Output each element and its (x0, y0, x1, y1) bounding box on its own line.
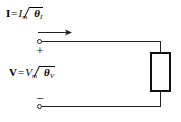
voltage-equals-sign: = (17, 66, 25, 78)
bottom-wire (42, 106, 161, 107)
voltage-vector-symbol: V (9, 66, 17, 78)
circuit-diagram-canvas: I=ImθI V=VmθV + − (0, 0, 181, 122)
voltage-magnitude-symbol: V (25, 66, 32, 78)
top-wire (42, 41, 161, 42)
voltage-phasor-label: V=VmθV (9, 66, 55, 80)
current-angle-notation: θI (29, 7, 43, 21)
current-direction-arrow-icon (38, 29, 72, 36)
voltage-angle-subscript: V (50, 72, 54, 80)
current-angle-subscript: I (40, 13, 42, 21)
current-phasor-label: I=ImθI (6, 7, 43, 21)
voltage-angle-notation: θV (39, 66, 55, 80)
right-lower-wire (160, 91, 161, 107)
current-equals-sign: = (10, 7, 18, 19)
impedance-element-box (150, 52, 171, 92)
negative-polarity-sign: − (34, 92, 46, 105)
positive-polarity-sign: + (34, 45, 46, 57)
